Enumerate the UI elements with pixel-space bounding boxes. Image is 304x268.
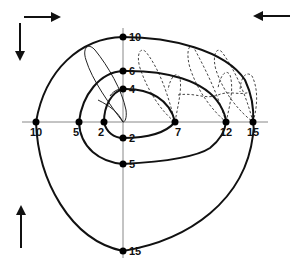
label-h15: 15 — [247, 126, 259, 138]
point-h15 — [250, 119, 257, 126]
point-h12 — [223, 119, 230, 126]
axis-points — [33, 34, 257, 255]
label-v6: 6 — [129, 65, 135, 77]
arrow-right-icon — [24, 12, 61, 22]
loop-outer-upper-left — [36, 37, 123, 122]
diagram-canvas: 10 5 2 7 12 15 10 6 4 2 5 15 — [0, 0, 304, 268]
arrow-down-icon — [15, 23, 25, 61]
label-h10: 10 — [30, 126, 42, 138]
arrow-up-icon — [16, 205, 26, 248]
point-v6 — [120, 68, 127, 75]
label-v2: 2 — [129, 132, 135, 144]
dashed-petal-1 — [138, 50, 175, 122]
point-h5 — [76, 119, 83, 126]
label-h12: 12 — [220, 126, 232, 138]
point-v4 — [120, 86, 127, 93]
point-h10 — [33, 119, 40, 126]
loop-middle-upper-left — [79, 71, 123, 122]
loop-outer-lower-right — [123, 122, 254, 251]
point-v5 — [120, 161, 127, 168]
loop-inner-lower-left — [104, 122, 123, 138]
label-v15: 15 — [129, 245, 141, 257]
arrow-left-icon — [253, 11, 290, 21]
thin-petal-inner-1 — [98, 100, 123, 122]
point-v10 — [120, 34, 127, 41]
solid-loops — [36, 37, 254, 251]
label-v4: 4 — [129, 83, 136, 95]
loop-outer-lower-left — [36, 122, 123, 251]
spiral-diagram: 10 5 2 7 12 15 10 6 4 2 5 15 — [0, 0, 304, 268]
axis-labels: 10 5 2 7 12 15 10 6 4 2 5 15 — [30, 31, 259, 257]
point-v15 — [120, 248, 127, 255]
point-h7 — [172, 119, 179, 126]
point-h2 — [101, 119, 108, 126]
point-v2 — [120, 135, 127, 142]
label-h5: 5 — [73, 126, 79, 138]
label-h7: 7 — [175, 126, 181, 138]
label-v10: 10 — [129, 31, 141, 43]
dashed-petal-2 — [168, 75, 181, 122]
label-h2: 2 — [98, 126, 104, 138]
label-v5: 5 — [129, 158, 135, 170]
